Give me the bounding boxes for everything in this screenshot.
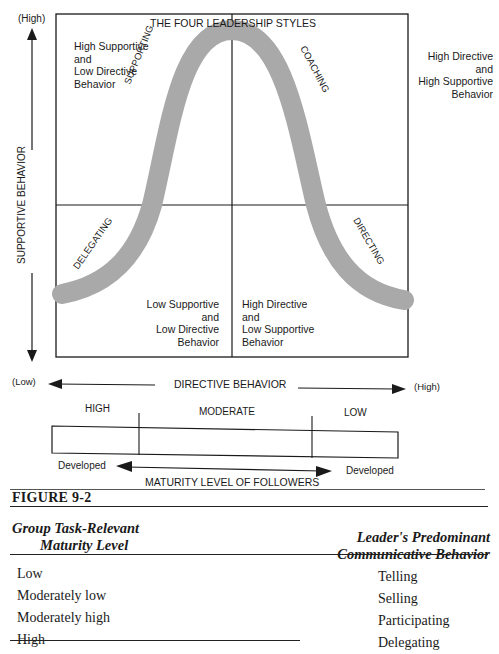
table-header-maturity: Group Task-Relevant Maturity Level — [12, 520, 139, 554]
x-axis-line-left — [56, 384, 155, 385]
table-top-rule — [10, 506, 488, 507]
developed-left-label: Developed — [58, 460, 106, 471]
table-header-behavior: Leader's Predominant Communicative Behav… — [300, 529, 490, 563]
maturity-moderate-label: MODERATE — [199, 406, 255, 417]
x-axis-label: DIRECTIVE BEHAVIOR — [174, 378, 286, 390]
maturity-column: Low Moderately low Moderately high High — [17, 563, 110, 651]
figure-caption: FIGURE 9-2 — [12, 490, 92, 506]
diagram-title: THE FOUR LEADERSHIP STYLES — [150, 17, 316, 29]
maturity-low-label: LOW — [344, 407, 367, 418]
maturity-arrow-line — [126, 467, 322, 471]
left-arrow-icon — [48, 379, 62, 389]
table-cell: Delegating — [378, 632, 450, 654]
quadrant-top-right-text: High Directive and High Supportive Behav… — [405, 50, 493, 100]
up-arrow-icon — [27, 28, 37, 40]
directing-label: DIRECTING — [351, 216, 387, 267]
table-cell: Moderately high — [17, 607, 110, 629]
x-axis-line-right — [298, 388, 396, 389]
down-arrow-icon — [27, 350, 37, 362]
table-cell: Low — [17, 563, 110, 585]
left-arrow-icon — [116, 461, 132, 472]
x-axis-low-label: (Low) — [12, 376, 36, 387]
quadrant-bottom-left-text: Low Supportive and Low Directive Behavio… — [140, 298, 219, 348]
quadrant-top-left-text: High Supportive and Low Directive Behavi… — [74, 40, 149, 90]
coaching-label: COACHING — [298, 44, 332, 94]
y-axis-high-label: (High) — [18, 13, 45, 24]
maturity-scale-bar — [52, 426, 398, 458]
table-cell: Participating — [378, 610, 450, 632]
developed-right-label: Developed — [346, 465, 394, 476]
quadrant-bottom-right-text: High Directive and Low Supportive Behavi… — [242, 298, 314, 348]
table-cell: Selling — [378, 588, 450, 610]
table-bottom-rule — [10, 640, 300, 641]
right-arrow-icon — [392, 384, 406, 394]
table-header-rule — [10, 554, 488, 555]
behavior-column: Telling Selling Participating Delegating — [378, 566, 450, 654]
x-axis-high-label: (High) — [414, 381, 440, 392]
table-cell: Moderately low — [17, 585, 110, 607]
y-axis-label: SUPPORTIVE BEHAVIOR — [16, 146, 27, 264]
maturity-scale-label: MATURITY LEVEL OF FOLLOWERS — [145, 476, 319, 488]
maturity-high-label: HIGH — [85, 403, 110, 414]
table-cell: Telling — [378, 566, 450, 588]
